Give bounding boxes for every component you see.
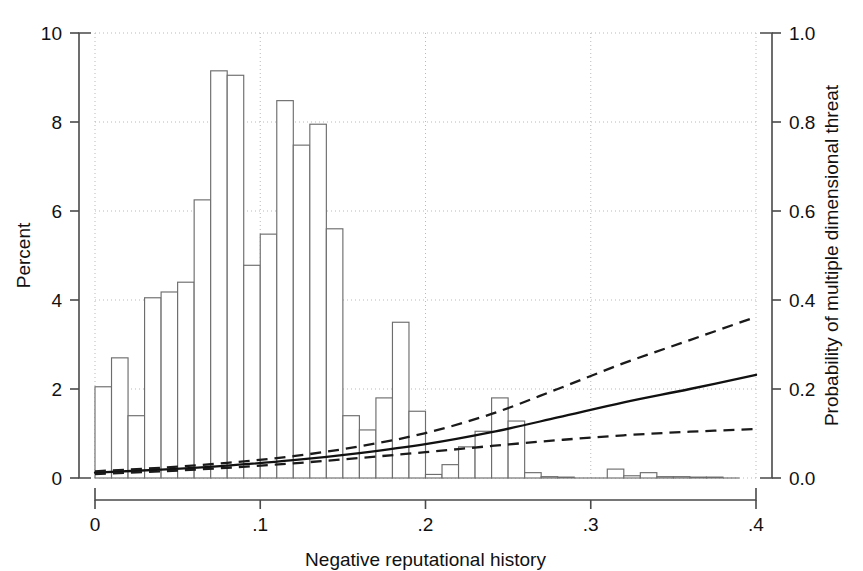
y-axis-right-tick-label-0: 0.0: [789, 468, 815, 489]
histogram-bar: [525, 473, 542, 478]
histogram-bar: [640, 473, 657, 478]
histogram-bar: [260, 234, 277, 478]
y-axis-left-tick-label-2: 4: [51, 290, 62, 311]
y-axis-right-tick-label-4: 0.8: [789, 112, 815, 133]
histogram-bar: [310, 124, 327, 478]
y-axis-left-tick-label-4: 8: [51, 112, 62, 133]
histogram-bar: [178, 282, 195, 478]
histogram-bar: [194, 200, 211, 478]
histogram-bar: [227, 75, 244, 478]
histogram-bars: [95, 71, 739, 478]
histogram-bar: [112, 358, 129, 478]
x-axis-tick-label-2: .2: [418, 514, 434, 535]
histogram-bar: [211, 71, 228, 478]
y-axis-left-tick-label-5: 10: [41, 23, 62, 44]
histogram-bar: [376, 398, 393, 478]
histogram-bar: [607, 469, 624, 478]
histogram-bar: [244, 265, 261, 478]
chart-figure: 02468100.00.20.40.60.81.00.1.2.3.4 Perce…: [0, 0, 863, 571]
histogram-bar: [459, 447, 476, 478]
x-axis-title: Negative reputational history: [305, 549, 546, 570]
histogram-bar: [657, 477, 674, 478]
histogram-bar: [624, 476, 641, 478]
axis-titles: PercentProbability of multiple dimension…: [13, 84, 842, 570]
histogram-bar: [508, 421, 525, 478]
histogram-bar: [690, 477, 707, 478]
y-axis-left-title: Percent: [13, 222, 34, 288]
histogram-bar: [475, 431, 492, 478]
histogram-bar: [161, 292, 178, 478]
y-axis-right-tick-label-3: 0.6: [789, 201, 815, 222]
histogram-bar: [326, 229, 343, 478]
histogram-bar: [541, 477, 558, 478]
histogram-with-probability-curve: 02468100.00.20.40.60.81.00.1.2.3.4 Perce…: [0, 0, 863, 571]
histogram-bar: [673, 477, 690, 478]
histogram-bar: [558, 477, 575, 478]
x-axis-tick-label-3: .3: [583, 514, 599, 535]
y-axis-right-spine: [760, 33, 772, 478]
y-axis-right-tick-label-5: 1.0: [789, 23, 815, 44]
histogram-bar: [706, 477, 723, 478]
y-axis-left-tick-label-1: 2: [51, 379, 62, 400]
histogram-bar: [145, 298, 162, 478]
histogram-bar: [442, 465, 459, 478]
y-axis-right-title: Probability of multiple dimensional thre…: [821, 84, 842, 426]
histogram-bar: [293, 145, 310, 478]
y-axis-left-spine: [79, 33, 91, 478]
histogram-bar: [426, 474, 443, 478]
histogram-bar: [95, 387, 112, 478]
x-axis-spine: [95, 488, 756, 500]
x-axis-tick-label-0: 0: [90, 514, 101, 535]
y-axis-right-tick-label-2: 0.4: [789, 290, 816, 311]
histogram-bar: [359, 430, 376, 478]
y-axis-left-tick-label-0: 0: [51, 468, 62, 489]
x-axis-tick-label-4: .4: [748, 514, 764, 535]
y-axis-right-tick-label-1: 0.2: [789, 379, 815, 400]
y-axis-left-tick-label-3: 6: [51, 201, 62, 222]
x-axis-tick-label-1: .1: [252, 514, 268, 535]
histogram-bar: [277, 101, 294, 478]
